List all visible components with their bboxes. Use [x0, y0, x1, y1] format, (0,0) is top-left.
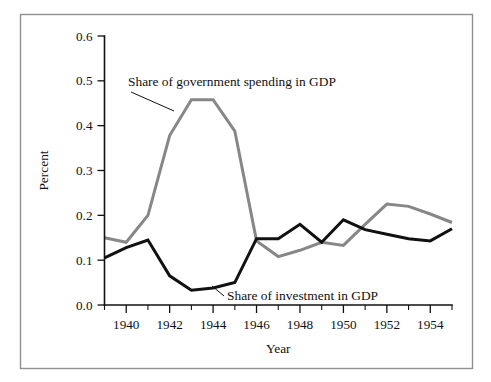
x-tick-label: 1946	[243, 317, 270, 332]
investment-annotation-label: Share of investment in GDP	[227, 288, 378, 303]
y-tick-label: 0.4	[76, 118, 93, 133]
x-tick-label: 1954	[417, 317, 444, 332]
y-tick-label: 0.0	[76, 298, 93, 313]
y-tick-label: 0.5	[76, 73, 93, 88]
x-tick-label: 1948	[287, 317, 314, 332]
y-axis-title: Percent	[36, 150, 51, 190]
x-tick-label: 1950	[330, 317, 357, 332]
government-spending-annotation-label: Share of government spending in GDP	[128, 74, 336, 89]
x-tick-label: 1942	[156, 317, 182, 332]
x-tick-label: 1952	[374, 317, 400, 332]
chart-figure: 19401942194419461948195019521954 0.00.10…	[0, 0, 491, 382]
x-tick-label: 1940	[113, 317, 140, 332]
y-tick-label: 0.2	[76, 208, 92, 223]
x-axis-title: Year	[266, 341, 291, 356]
x-tick-label: 1944	[200, 317, 227, 332]
y-tick-label: 0.3	[76, 163, 93, 178]
y-tick-label: 0.6	[76, 29, 93, 44]
y-tick-label: 0.1	[76, 253, 92, 268]
